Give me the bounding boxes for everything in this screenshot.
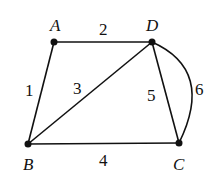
graph-diagram: A D B C 1 2 3 4 5 6 [0,0,224,181]
node-D [149,39,156,46]
edge-label-6: 6 [195,80,204,99]
node-label-D: D [145,16,159,35]
node-label-C: C [173,155,185,174]
edge-label-4: 4 [99,151,108,170]
edge-label-3: 3 [73,79,82,98]
edge-6 [152,42,192,143]
node-label-A: A [49,16,61,35]
node-C [176,140,183,147]
node-B [25,141,32,148]
edge-label-5: 5 [147,86,156,105]
node-label-B: B [23,155,34,174]
edge-label-1: 1 [25,81,34,100]
edge-label-2: 2 [99,20,108,39]
edge-3 [28,42,152,144]
node-A [51,39,58,46]
edge-4 [28,143,179,144]
